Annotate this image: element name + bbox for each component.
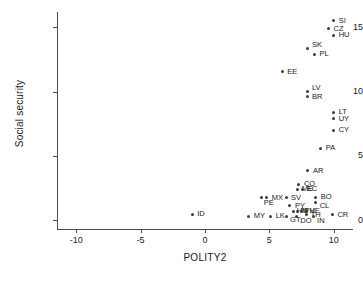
- x-tick-label-10: 10: [314, 236, 354, 245]
- data-point-label-PE: PE: [264, 199, 274, 207]
- data-point-TH: [305, 213, 308, 216]
- x-tick-5: [269, 229, 270, 233]
- data-point-label-LV: LV: [312, 84, 321, 92]
- scatter-plot-figure: 051015 -10-50510 SICZHUSKPLEELVBRLTUYCYP…: [0, 0, 363, 282]
- data-point-LT: [332, 111, 335, 114]
- data-point-label-PL: PL: [319, 50, 328, 58]
- data-point-label-IN: IN: [317, 217, 325, 225]
- data-point-EE: [281, 70, 284, 73]
- data-point-label-BO: BO: [321, 193, 332, 201]
- x-tick-0: [205, 229, 206, 233]
- x-tick-10: [334, 229, 335, 233]
- data-point-CO: [297, 183, 300, 186]
- data-point-SK: [306, 47, 309, 50]
- x-tick-label--10: -10: [56, 236, 96, 245]
- data-point-label-UY: UY: [339, 115, 349, 123]
- data-point-CY: [332, 129, 335, 132]
- x-tick-label-0: 0: [185, 236, 225, 245]
- data-point-AR: [306, 169, 309, 172]
- data-point-CL: [314, 201, 317, 204]
- data-point-LK: [269, 215, 272, 218]
- data-point-label-EC: EC: [307, 185, 317, 193]
- data-point-BO: [314, 196, 317, 199]
- y-tick-10: [53, 92, 57, 93]
- data-point-label-LK: LK: [276, 212, 285, 220]
- data-point-SV: [285, 196, 288, 199]
- plot-area: 051015 -10-50510 SICZHUSKPLEELVBRLTUYCYP…: [0, 0, 363, 282]
- x-tick--5: [141, 229, 142, 233]
- data-point-DO: [295, 215, 298, 218]
- data-point-MY: [247, 215, 250, 218]
- data-point-NI: [296, 210, 299, 213]
- data-point-PH: [300, 210, 303, 213]
- x-tick--10: [76, 229, 77, 233]
- x-tick-label--5: -5: [121, 236, 161, 245]
- data-point-label-ID: ID: [197, 210, 205, 218]
- data-point-HU: [332, 34, 335, 37]
- data-point-PY: [288, 204, 291, 207]
- data-point-label-HU: HU: [339, 31, 350, 39]
- data-point-label-MY: MY: [254, 212, 265, 220]
- data-point-label-AR: AR: [313, 167, 323, 175]
- y-axis-line: [57, 12, 58, 229]
- data-point-BR: [306, 95, 309, 98]
- data-point-label-BR: BR: [312, 93, 322, 101]
- y-tick-5: [53, 156, 57, 157]
- data-point-PA: [319, 147, 322, 150]
- data-point-ME: [296, 188, 299, 191]
- data-point-label-CY: CY: [339, 126, 349, 134]
- y-tick-label-5: 5: [319, 151, 363, 160]
- data-point-UY: [332, 117, 335, 120]
- data-point-HN: [292, 210, 295, 213]
- data-point-label-CR: CR: [337, 211, 348, 219]
- y-tick-label-10: 10: [319, 87, 363, 96]
- data-point-label-EE: EE: [287, 68, 297, 76]
- data-point-label-SK: SK: [312, 41, 322, 49]
- data-point-IN: [312, 215, 315, 218]
- x-axis-title: POLITY2: [57, 252, 353, 263]
- data-point-PL: [313, 53, 316, 56]
- data-point-GT: [285, 215, 288, 218]
- data-point-label-CL: CL: [320, 202, 330, 210]
- data-point-ID: [191, 213, 194, 216]
- y-tick-15: [53, 27, 57, 28]
- y-tick-0: [53, 220, 57, 221]
- x-tick-label-5: 5: [249, 236, 289, 245]
- y-axis-title: Social security: [14, 54, 25, 174]
- data-point-label-PA: PA: [326, 144, 335, 152]
- data-point-LV: [306, 90, 309, 93]
